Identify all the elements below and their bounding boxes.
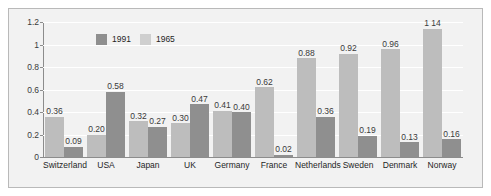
bar-1965[interactable]: 0.88 xyxy=(297,58,316,157)
category-label-denmark: Denmark xyxy=(379,160,421,170)
bar-value-label: 1 14 xyxy=(424,19,441,28)
bar-1965[interactable]: 0.62 xyxy=(255,87,274,157)
y-tick-label: 1.2 xyxy=(27,17,39,27)
bar-1965[interactable]: 0.30 xyxy=(171,123,190,157)
bar-value-label: 0.88 xyxy=(298,49,315,58)
category-label-netherlands: Netherlands xyxy=(295,160,337,170)
bar-value-label: 0.27 xyxy=(149,117,166,126)
bar-1991[interactable]: 0.19 xyxy=(358,136,377,157)
bar-pair: 0.880.36 xyxy=(295,22,337,157)
bar-value-label: 0.16 xyxy=(443,130,460,139)
bar-value-label: 0.13 xyxy=(401,133,418,142)
bar-group: 0.960.13 xyxy=(379,22,421,157)
bar-1965[interactable]: 0.36 xyxy=(45,117,64,158)
category-label-germany: Germany xyxy=(211,160,253,170)
bar-1991[interactable]: 0.58 xyxy=(106,92,125,157)
bar-group: 0.880.36 xyxy=(295,22,337,157)
bar-1965[interactable]: 0.92 xyxy=(339,54,358,158)
bar-1965[interactable]: 0.32 xyxy=(129,121,148,157)
bar-1991[interactable]: 0.40 xyxy=(232,112,251,157)
bar-value-label: 0.58 xyxy=(107,82,124,91)
y-tick-label: 0.8 xyxy=(27,62,39,72)
bar-chart-figure: 00.20.40.60.811.2 0.360.090.200.580.320.… xyxy=(0,0,491,196)
bar-group: 1 140.16 xyxy=(421,22,463,157)
bar-pair: 0.410.40 xyxy=(211,22,253,157)
category-label-france: France xyxy=(253,160,295,170)
bar-1965[interactable]: 0.20 xyxy=(87,135,106,158)
bar-value-label: 0.09 xyxy=(65,137,82,146)
bar-1965[interactable]: 0.96 xyxy=(381,49,400,157)
bar-value-label: 0.92 xyxy=(340,44,357,53)
bar-1991[interactable]: 0.13 xyxy=(400,142,419,157)
legend-swatch-1965 xyxy=(140,34,151,45)
bar-value-label: 0.47 xyxy=(191,95,208,104)
bar-group: 0.300.47 xyxy=(169,22,211,157)
bar-group: 0.920.19 xyxy=(337,22,379,157)
bar-1991[interactable]: 0.27 xyxy=(148,127,167,157)
legend-swatch-1991 xyxy=(96,34,107,45)
bar-pair: 0.300.47 xyxy=(169,22,211,157)
legend-entry-1991[interactable]: 1991 xyxy=(96,34,131,45)
legend-label-1965: 1965 xyxy=(156,35,175,44)
bar-pair: 0.960.13 xyxy=(379,22,421,157)
category-label-uk: UK xyxy=(169,160,211,170)
bar-1991[interactable]: 0.47 xyxy=(190,104,209,157)
bar-group: 0.410.40 xyxy=(211,22,253,157)
bar-value-label: 0.41 xyxy=(214,101,231,110)
x-axis-line xyxy=(43,157,463,158)
bar-pair: 1 140.16 xyxy=(421,22,463,157)
bar-1965[interactable]: 0.41 xyxy=(213,111,232,157)
bar-value-label: 0.36 xyxy=(317,107,334,116)
bar-pair: 0.920.19 xyxy=(337,22,379,157)
bar-group: 0.360.09 xyxy=(43,22,85,157)
bar-value-label: 0.19 xyxy=(359,126,376,135)
legend-label-1991: 1991 xyxy=(112,35,131,44)
bar-group: 0.620.02 xyxy=(253,22,295,157)
bar-1991[interactable]: 0.09 xyxy=(64,147,83,157)
category-label-japan: Japan xyxy=(127,160,169,170)
bar-value-label: 0.20 xyxy=(88,125,105,134)
bar-pair: 0.620.02 xyxy=(253,22,295,157)
category-label-norway: Norway xyxy=(421,160,463,170)
y-tick-label: 0.4 xyxy=(27,107,39,117)
bar-value-label: 0.36 xyxy=(46,107,63,116)
bar-1991[interactable]: 0.36 xyxy=(316,117,335,158)
bar-value-label: 0.40 xyxy=(233,103,250,112)
bar-value-label: 0.30 xyxy=(172,114,189,123)
chart-legend: 19911965 xyxy=(96,34,175,45)
bar-value-label: 0.32 xyxy=(130,112,147,121)
bar-value-label: 0.62 xyxy=(256,78,273,87)
legend-entry-1965[interactable]: 1965 xyxy=(140,34,175,45)
bar-value-label: 0.96 xyxy=(382,40,399,49)
y-tick-label: 0 xyxy=(34,152,39,162)
y-tick-mark xyxy=(40,157,43,158)
category-label-switzerland: Switzerland xyxy=(43,160,85,170)
y-tick-label: 0.6 xyxy=(27,85,39,95)
bar-value-label: 0.02 xyxy=(275,145,292,154)
y-tick-label: 1 xyxy=(34,40,39,50)
bar-1991[interactable]: 0.16 xyxy=(442,139,461,157)
bar-pair: 0.360.09 xyxy=(43,22,85,157)
category-label-usa: USA xyxy=(85,160,127,170)
category-label-sweden: Sweden xyxy=(337,160,379,170)
y-tick-label: 0.2 xyxy=(27,130,39,140)
bar-1965[interactable]: 1 14 xyxy=(423,29,442,157)
bar-1991[interactable]: 0.02 xyxy=(274,155,293,157)
